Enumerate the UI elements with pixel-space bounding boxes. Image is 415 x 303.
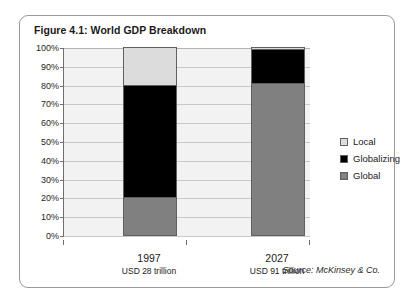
y-tick-mark [60,48,64,49]
y-tick-label: 50% [25,137,59,147]
figure-title: Figure 4.1: World GDP Breakdown [34,24,206,36]
y-tick-mark [60,180,64,181]
y-tick-mark [60,161,64,162]
y-tick-label: 10% [25,212,59,222]
y-tick-label: 30% [25,175,59,185]
figure-frame: Figure 4.1: World GDP Breakdown 0%10%20%… [19,15,395,288]
legend-swatch-icon [340,155,348,163]
y-tick-mark [60,67,64,68]
bar-segment [123,197,177,236]
y-tick-mark [60,236,64,237]
legend-label: Local [353,136,376,147]
y-tick-label: 0% [25,231,59,241]
y-tick-mark [60,217,64,218]
x-axis-label-group: 1997USD 28 trillion [94,252,204,277]
y-tick-mark [60,104,64,105]
x-axis: 1997USD 28 trillion2027USD 91 trillion [63,240,311,280]
bar-segment [251,47,305,50]
chart-legend: LocalGlobalizingGlobal [340,133,400,184]
legend-label: Globalizing [353,153,400,164]
y-tick-label: 90% [25,62,59,72]
bar-segment [251,49,305,84]
legend-swatch-icon [340,138,348,146]
y-tick-label: 80% [25,81,59,91]
y-tick-label: 40% [25,156,59,166]
bar-segment [123,47,177,86]
bar-segment [123,85,177,199]
y-tick-mark [60,142,64,143]
legend-item-globalizing[interactable]: Globalizing [340,150,400,167]
legend-item-local[interactable]: Local [340,133,400,150]
y-axis: 0%10%20%30%40%50%60%70%80%90%100% [20,48,59,236]
plot-area [63,48,310,237]
y-tick-mark [60,123,64,124]
source-note: Source: McKinsey & Co. [282,265,380,275]
x-axis-category-label: 1997 [94,252,204,265]
y-tick-label: 100% [25,43,59,53]
y-tick-mark [60,86,64,87]
bar-column [251,48,305,236]
x-tick-mark [186,240,187,245]
bar-column [123,48,177,236]
legend-label: Global [353,170,380,181]
x-axis-sublabel: USD 28 trillion [94,265,204,277]
gridline [64,236,310,237]
x-tick-mark [309,240,310,245]
x-tick-mark [63,240,64,245]
x-axis-category-label: 2027 [222,252,332,265]
legend-swatch-icon [340,172,348,180]
y-tick-mark [60,198,64,199]
y-tick-label: 60% [25,118,59,128]
y-tick-label: 70% [25,99,59,109]
y-tick-label: 20% [25,193,59,203]
legend-item-global[interactable]: Global [340,167,400,184]
bar-segment [251,83,305,236]
